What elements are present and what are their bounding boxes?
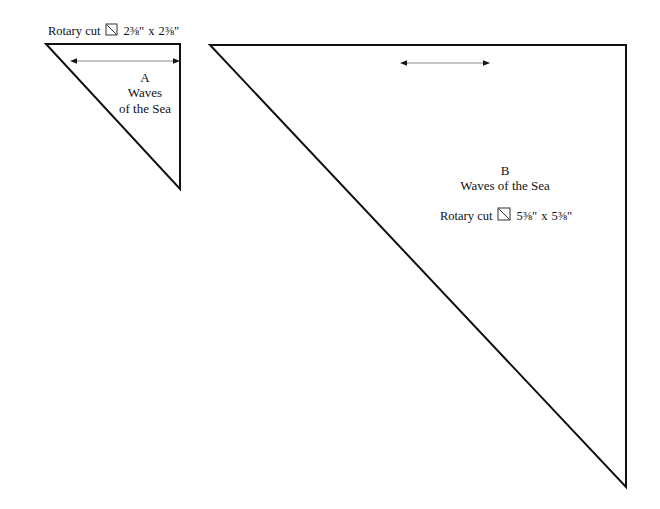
patch-a-triangle [46, 44, 180, 189]
patch-a-name-line1: Waves [103, 85, 187, 100]
patch-b-cut-prefix: Rotary cut [440, 209, 492, 224]
patch-b-triangle [210, 45, 626, 487]
patch-b-label-block: B Waves of the Sea [420, 163, 590, 194]
patch-a-cut-width: 2⅜" [123, 24, 144, 39]
patch-a-cut-prefix: Rotary cut [48, 24, 100, 39]
patch-b-cut-width: 5⅜" [516, 209, 537, 224]
square-with-diagonal-icon [105, 23, 118, 40]
patch-b-cut-instruction: Rotary cut 5⅜" x 5⅜" [440, 207, 572, 225]
patch-b-name-line1: Waves of the Sea [420, 178, 590, 193]
patch-a-letter: A [103, 70, 187, 85]
patch-a-label-block: A Waves of the Sea [103, 70, 187, 116]
patch-a-cut-separator: x [148, 24, 154, 39]
patch-a-cut-height: 2⅜" [158, 24, 179, 39]
patch-a-name-line2: of the Sea [103, 101, 187, 116]
patch-b-cut-separator: x [541, 209, 547, 224]
patch-b-letter: B [420, 163, 590, 178]
square-with-diagonal-icon [497, 207, 511, 225]
patch-b-cut-height: 5⅜" [551, 209, 572, 224]
patch-shapes-layer [0, 0, 660, 509]
patch-a-cut-instruction: Rotary cut 2⅜" x 2⅜" [48, 23, 179, 40]
template-page: Rotary cut 2⅜" x 2⅜" A Waves of the Sea … [0, 0, 660, 509]
